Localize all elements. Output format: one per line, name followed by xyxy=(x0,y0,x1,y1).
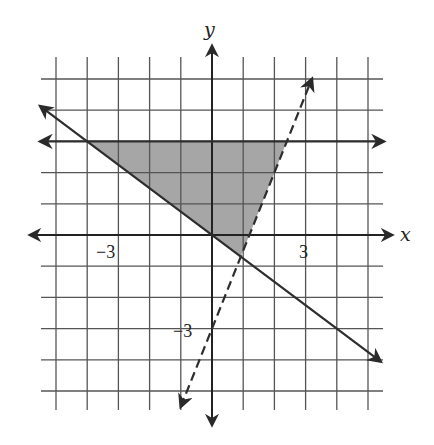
y-tick-label-neg3: −3 xyxy=(173,321,192,341)
shaded-solution-region xyxy=(87,141,287,256)
x-tick-label-neg3: −3 xyxy=(96,242,115,262)
x-axis-label: x xyxy=(400,223,411,245)
y-axis-label: y xyxy=(203,18,215,40)
x-tick-label-3: 3 xyxy=(299,242,308,262)
coordinate-plane: x y −3 3 −3 xyxy=(0,0,434,445)
boundary-line-dashed-2 xyxy=(181,79,312,407)
